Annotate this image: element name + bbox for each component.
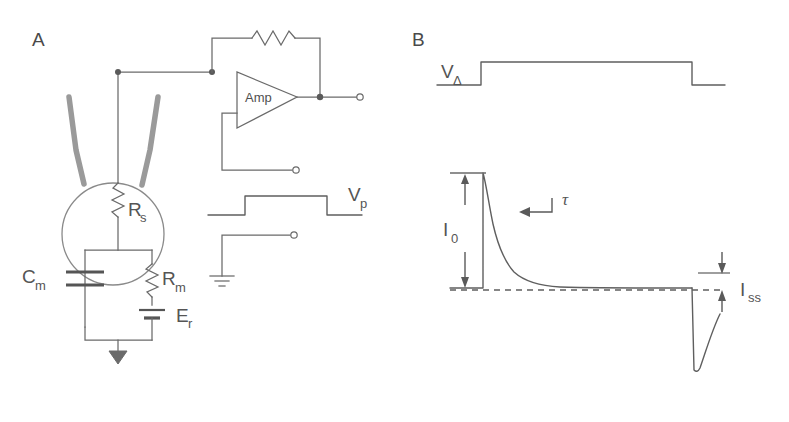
time-constant-label: τ	[562, 190, 569, 209]
wire-membrane-bottom-rail	[85, 327, 152, 340]
pipette-electrode-left	[69, 97, 84, 184]
wire-feedback-right	[295, 38, 320, 97]
peak-current-arrow-up-head	[461, 174, 469, 184]
series-resistance-subscript: s	[140, 210, 147, 225]
time-constant-pointer-head	[519, 207, 530, 217]
current-response-offset-trace	[692, 288, 720, 371]
wire-ground-reference	[222, 235, 290, 276]
voltage-step-subscript: Δ	[453, 73, 462, 88]
resting-potential-subscript: r	[188, 316, 193, 331]
figure-root: A R s C m	[0, 0, 789, 422]
series-resistance-symbol	[112, 183, 124, 217]
peak-current-arrow-down-head	[461, 277, 469, 288]
peak-current-subscript: 0	[451, 231, 458, 246]
amplifier-label: Amp	[245, 90, 272, 105]
steady-state-arrow-up-head	[718, 290, 726, 301]
membrane-capacitance-subscript: m	[35, 278, 46, 293]
pipette-electrode-right	[142, 97, 158, 185]
time-constant-pointer-shaft	[527, 198, 552, 212]
panel-b: B V Δ I 0 I ss	[412, 29, 762, 371]
resting-potential-label: E	[176, 305, 189, 326]
command-voltage-subscript: p	[360, 196, 367, 211]
ground-arrow-icon	[109, 351, 127, 364]
feedback-resistor-symbol	[252, 31, 295, 45]
membrane-capacitance-label: C	[22, 266, 36, 287]
wire-amp-noninverting-input	[222, 113, 292, 170]
terminal-ground-reference[interactable]	[291, 232, 297, 238]
peak-current-label: I	[443, 219, 448, 240]
terminal-command-input[interactable]	[293, 167, 299, 173]
panel-a-label: A	[32, 29, 45, 50]
wire-feedback-left	[212, 38, 252, 72]
voltage-step-trace	[437, 62, 725, 85]
current-response-onset-trace	[450, 173, 692, 288]
figure-canvas: A R s C m	[0, 0, 789, 422]
steady-state-current-subscript: ss	[748, 290, 762, 305]
membrane-resistance-symbol	[146, 264, 158, 297]
membrane-resistance-label: R	[162, 268, 176, 289]
membrane-resistance-subscript: m	[175, 280, 186, 295]
steady-state-current-label: I	[740, 279, 745, 300]
panel-a: A R s C m	[22, 29, 367, 364]
command-voltage-waveform	[208, 196, 362, 215]
node-dot-headstage	[115, 69, 121, 75]
panel-b-label: B	[412, 29, 425, 50]
terminal-current-output[interactable]	[357, 94, 363, 100]
node-dot-amp-output	[317, 94, 323, 100]
